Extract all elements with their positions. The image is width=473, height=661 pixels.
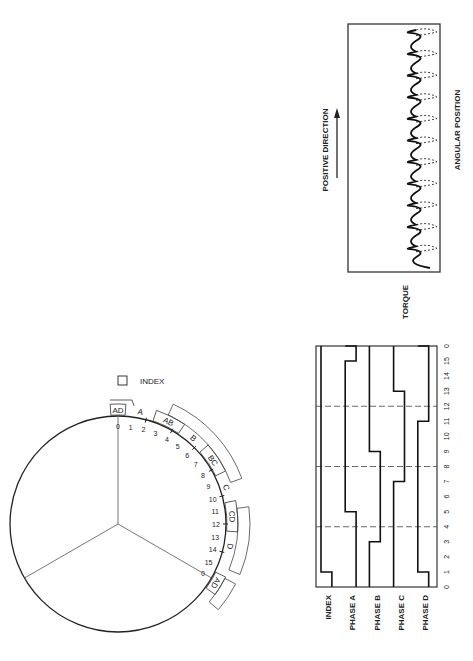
rotor-position-label: 0 bbox=[201, 570, 205, 577]
rotor-position-label: 4 bbox=[165, 436, 169, 443]
timing-axis-tick: 10 bbox=[443, 432, 450, 440]
rotor-position-label: 6 bbox=[185, 452, 189, 459]
rotor-phase-sector-label: AD bbox=[112, 406, 123, 415]
rotor-position-label: 11 bbox=[212, 508, 219, 515]
torque-wave bbox=[408, 29, 437, 268]
timing-axis-tick: 8 bbox=[443, 464, 450, 468]
timing-axis-tick: 13 bbox=[443, 387, 450, 395]
timing-signal-label: PHASE A bbox=[348, 595, 357, 630]
rotor-position-label: 0 bbox=[116, 423, 120, 430]
rotor-position-label: 1 bbox=[129, 424, 133, 431]
timing-axis-tick: 2 bbox=[443, 555, 450, 559]
arrow-head-icon bbox=[334, 108, 340, 118]
rotor-position-label: 12 bbox=[212, 521, 220, 528]
rotor-phase-sector-label: D bbox=[225, 543, 235, 551]
rotor-position-label: 10 bbox=[209, 496, 217, 503]
timing-axis-tick: 3 bbox=[443, 540, 450, 544]
rotor-position-label: 14 bbox=[209, 546, 217, 553]
rotor-position-label: 2 bbox=[141, 426, 145, 433]
rotor-tick-mark bbox=[219, 496, 224, 497]
rotor-position-label: 3 bbox=[154, 430, 158, 437]
rotor-tick-mark bbox=[145, 418, 146, 423]
timing-signal-label: PHASE B bbox=[373, 595, 382, 631]
timing-axis-tick: 7 bbox=[443, 480, 450, 484]
rotor-position-label: 9 bbox=[207, 483, 211, 490]
rotor-position-label: 7 bbox=[194, 461, 198, 468]
timing-gridlines bbox=[316, 406, 437, 527]
timing-axis-tick: 14 bbox=[443, 372, 450, 380]
timing-signal-labels: INDEXPHASE APHASE BPHASE CPHASE D bbox=[324, 594, 430, 630]
rotor-phase-sector-label: C bbox=[221, 483, 231, 492]
rotor-phase-sector-label: CD bbox=[227, 510, 237, 522]
rotor-spoke bbox=[118, 524, 212, 578]
timing-axis-tick: 0 bbox=[443, 344, 450, 348]
rotor-position-label: 15 bbox=[205, 559, 213, 566]
torque-chart-frame bbox=[348, 24, 440, 272]
rotor-position-label: 8 bbox=[201, 472, 205, 479]
positive-direction-label: POSITIVE DIRECTION bbox=[321, 108, 330, 191]
rotor-position-label: 13 bbox=[211, 534, 219, 541]
rotor-phase-sectors: ADAABBBCCCDDAD bbox=[110, 400, 250, 610]
timing-axis-tick: 11 bbox=[443, 418, 450, 425]
rotor-position-labels: 01234567891011121314150 bbox=[116, 418, 228, 577]
timing-signal-label: PHASE C bbox=[397, 595, 406, 631]
rotor-diagram: 01234567891011121314150 ADAABBBCCCDDAD I… bbox=[10, 376, 250, 632]
torque-xlabel: ANGULAR POSITION bbox=[453, 90, 462, 171]
timing-axis-tick: 9 bbox=[443, 449, 450, 453]
torque-curve bbox=[408, 30, 430, 268]
rotor-phase-sector-label: B bbox=[188, 433, 198, 443]
rotor-spoke bbox=[25, 524, 119, 578]
torque-ylabel: TORQUE bbox=[401, 284, 410, 319]
rotor-position-label: 5 bbox=[176, 443, 180, 450]
rotor-phase-sector-label: A bbox=[137, 407, 145, 417]
timing-axis-tick: 0 bbox=[443, 585, 450, 589]
timing-signal-label: INDEX bbox=[324, 594, 333, 619]
timing-signal-label: PHASE D bbox=[421, 595, 430, 631]
timing-axis-tick: 6 bbox=[443, 495, 450, 499]
timing-axis-tick: 4 bbox=[443, 525, 450, 529]
figure-canvas: TORQUE ANGULAR POSITION POSITIVE DIRECTI… bbox=[0, 0, 473, 661]
rotor-phase-sector-label: BC bbox=[206, 454, 220, 468]
torque-chart: TORQUE ANGULAR POSITION POSITIVE DIRECTI… bbox=[321, 24, 462, 319]
rotor-tick-mark bbox=[219, 551, 224, 552]
timing-chart: 01234567891011121314150 INDEXPHASE APHAS… bbox=[316, 344, 450, 631]
timing-axis-tick: 15 bbox=[443, 357, 450, 365]
timing-axis-tick: 12 bbox=[443, 402, 450, 410]
timing-axis-tick: 5 bbox=[443, 510, 450, 514]
timing-axis-tick: 1 bbox=[443, 570, 450, 574]
timing-axis-ticks: 01234567891011121314150 bbox=[443, 344, 450, 589]
index-legend-label: INDEX bbox=[140, 377, 165, 386]
index-legend-box bbox=[118, 376, 127, 385]
